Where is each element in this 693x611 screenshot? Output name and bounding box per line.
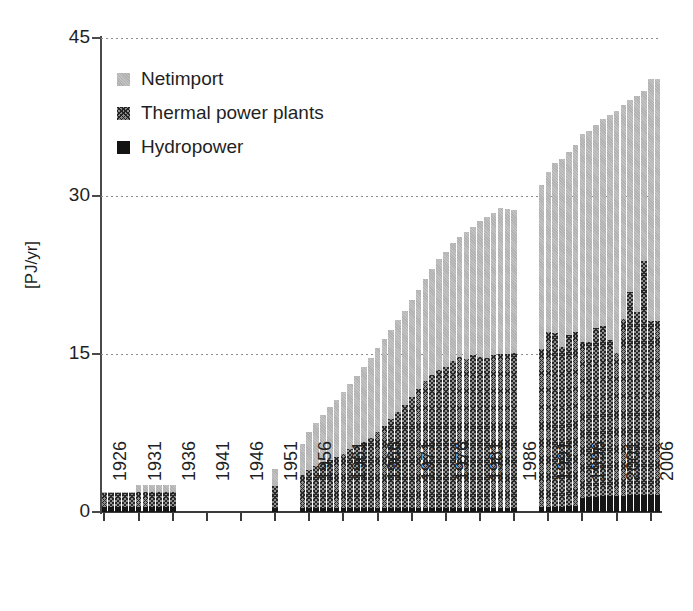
x-axis-tick [103, 512, 105, 521]
bar-segment-netimport [306, 432, 312, 470]
y-axis-tick [92, 353, 101, 355]
x-axis-tick-label: 1986 [521, 441, 539, 521]
bar-segment-thermal [470, 355, 476, 508]
bar-segment-netimport [559, 159, 565, 346]
legend-label-hydropower: Hydropower [141, 136, 243, 158]
bar-segment-netimport [347, 384, 353, 449]
bar-column [614, 38, 620, 512]
bar-segment-netimport [593, 125, 599, 327]
bar-segment-netimport [607, 115, 613, 340]
x-axis-tick [581, 512, 583, 521]
bar-segment-thermal [341, 454, 347, 509]
bar-segment-hydropower [546, 507, 552, 512]
x-axis-tick [616, 512, 618, 521]
bar-segment-thermal [511, 353, 517, 508]
y-axis-tick-labels: 0153045 [38, 0, 90, 611]
x-axis-tick [342, 512, 344, 521]
x-axis-tick-label: 1971 [419, 441, 437, 521]
bar-segment-netimport [423, 279, 429, 381]
bar-segment-netimport [627, 100, 633, 292]
bar-segment-netimport [102, 492, 108, 493]
x-axis-tick [206, 512, 208, 521]
legend-label-netimport: Netimport [141, 68, 223, 90]
bar-segment-hydropower [170, 507, 176, 512]
bar-segment-thermal [272, 486, 278, 508]
bar-column [102, 38, 108, 512]
x-axis-tick [411, 512, 413, 521]
y-axis-tick [92, 37, 101, 39]
x-axis-tick [377, 512, 379, 521]
bar-segment-hydropower [368, 508, 374, 512]
x-axis-tick-label: 2006 [658, 441, 676, 521]
x-axis-tick-label: 1931 [146, 441, 164, 521]
bar-segment-netimport [443, 252, 449, 367]
bar-column [648, 38, 654, 512]
bar-segment-netimport [655, 79, 661, 321]
y-axis-tick [92, 511, 101, 513]
bar-segment-thermal [546, 332, 552, 507]
bar-segment-netimport [170, 485, 176, 492]
bar-segment-netimport [491, 213, 497, 355]
x-axis-tick-label: 1976 [453, 441, 471, 521]
bar-segment-hydropower [607, 496, 613, 512]
bar-segment-netimport [477, 221, 483, 357]
bar-column [443, 38, 449, 512]
bar-segment-thermal [306, 470, 312, 508]
bar-segment-netimport [409, 300, 415, 397]
bar-segment-thermal [539, 349, 545, 507]
x-axis-tick-label: 1936 [180, 441, 198, 521]
y-axis-tick-label: 45 [44, 27, 90, 46]
y-axis-tick-label: 30 [44, 185, 90, 204]
x-axis-tick [513, 512, 515, 521]
x-axis-tick-label: 2001 [624, 441, 642, 521]
bar-segment-hydropower [102, 507, 108, 512]
x-axis-tick [445, 512, 447, 521]
x-axis-tick [650, 512, 652, 521]
x-axis-tick-label: 1991 [555, 441, 573, 521]
bar-segment-netimport [436, 259, 442, 370]
bar-segment-netimport [586, 131, 592, 343]
bar-column [477, 38, 483, 512]
bar-segment-netimport [546, 172, 552, 332]
bar-segment-hydropower [648, 495, 654, 512]
x-axis-tick-label: 1981 [487, 441, 505, 521]
legend-label-thermal-power-plants: Thermal power plants [141, 102, 324, 124]
bar-segment-hydropower [470, 508, 476, 512]
bar-segment-netimport [402, 311, 408, 405]
x-axis-tick [308, 512, 310, 521]
bar-segment-thermal [102, 493, 108, 507]
bar-segment-netimport [641, 91, 647, 262]
legend-swatch-hydropower-icon [117, 141, 130, 154]
bar-segment-thermal [409, 397, 415, 508]
bar-segment-netimport [375, 348, 381, 432]
bar-segment-hydropower [477, 508, 483, 512]
x-axis-tick-label: 1996 [589, 441, 607, 521]
bar-segment-netimport [361, 367, 367, 442]
bar-segment-hydropower [136, 507, 142, 512]
x-axis-tick-label: 1951 [282, 441, 300, 521]
bar-segment-hydropower [580, 498, 586, 512]
bar-segment-thermal [375, 432, 381, 508]
bar-segment-hydropower [614, 496, 620, 512]
bar-segment-netimport [621, 105, 627, 319]
y-axis-tick [92, 195, 101, 197]
x-axis-tick [172, 512, 174, 521]
bar-segment-hydropower [306, 508, 312, 512]
x-axis-tick-label: 1926 [111, 441, 129, 521]
bar-segment-thermal [170, 492, 176, 507]
bar-segment-netimport [580, 134, 586, 343]
bar-segment-netimport [484, 217, 490, 358]
bar-segment-hydropower [300, 508, 306, 512]
bar-segment-hydropower [573, 506, 579, 512]
bar-segment-thermal [443, 367, 449, 508]
x-axis-tick [138, 512, 140, 521]
bar-segment-hydropower [436, 508, 442, 512]
bar-segment-netimport [566, 152, 572, 335]
bar-segment-thermal [648, 321, 654, 495]
bar-segment-netimport [429, 269, 435, 375]
legend-item-hydropower: Hydropower [117, 130, 417, 164]
bar-segment-netimport [648, 79, 654, 321]
bar-segment-netimport [634, 96, 640, 312]
bar-segment-thermal [614, 353, 620, 496]
legend-item-netimport: Netimport [117, 62, 417, 96]
